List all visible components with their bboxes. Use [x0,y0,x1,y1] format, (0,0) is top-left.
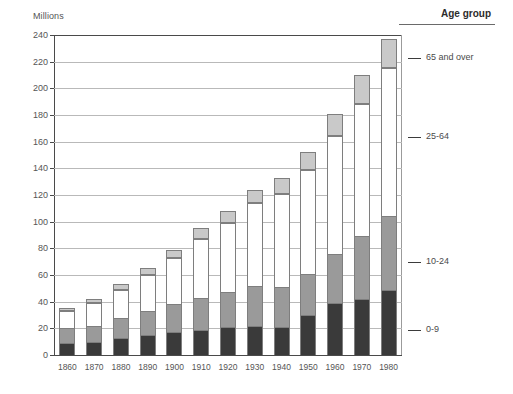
legend-dash-10-24 [408,262,421,263]
bar-segment-1920-0-9 [220,327,236,355]
gridline-200 [54,88,402,89]
y-tick-mark-180 [50,115,54,116]
bar-segment-1980-25-64 [381,68,397,216]
plot-area [54,35,402,356]
bar-segment-1960-25-64 [327,136,343,253]
bar-segment-1900-65-and-over [166,250,182,258]
y-tick-label-40: 40 [20,297,48,307]
bar-segment-1940-10-24 [274,287,290,327]
y-tick-mark-60 [50,275,54,276]
bar-segment-1900-0-9 [166,332,182,355]
bar-1910[interactable] [193,228,209,355]
y-tick-mark-160 [50,142,54,143]
bar-segment-1930-65-and-over [247,190,263,203]
bar-segment-1980-10-24 [381,216,397,289]
bar-segment-1890-10-24 [140,311,156,335]
bar-segment-1920-25-64 [220,223,236,292]
legend-title: Age group [441,8,491,19]
bar-segment-1860-10-24 [59,328,75,343]
y-tick-label-140: 140 [20,163,48,173]
bar-segment-1910-25-64 [193,239,209,298]
y-tick-label-160: 160 [20,137,48,147]
bar-1920[interactable] [220,211,236,355]
bar-segment-1950-0-9 [300,315,316,355]
bar-segment-1940-25-64 [274,194,290,287]
bar-segment-1970-65-and-over [354,75,370,104]
bar-segment-1970-25-64 [354,104,370,236]
bar-1930[interactable] [247,190,263,355]
y-tick-label-180: 180 [20,110,48,120]
bar-segment-1950-65-and-over [300,152,316,169]
bar-segment-1930-10-24 [247,286,263,326]
y-tick-label-120: 120 [20,190,48,200]
bar-segment-1870-10-24 [86,326,102,342]
bar-1890[interactable] [140,268,156,355]
legend-label-25-64: 25-64 [426,131,449,141]
x-tick-label-1980: 1980 [372,362,406,372]
bar-1870[interactable] [86,299,102,355]
bar-1980[interactable] [381,39,397,355]
legend-label-65-and-over: 65 and over [426,52,474,62]
legend-label-10-24: 10-24 [426,256,449,266]
bar-segment-1930-0-9 [247,326,263,355]
bar-1880[interactable] [113,284,129,355]
y-tick-label-0: 0 [20,350,48,360]
bar-segment-1950-10-24 [300,274,316,315]
bar-segment-1870-0-9 [86,342,102,355]
bar-segment-1890-65-and-over [140,268,156,275]
legend-dash-65-and-over [408,58,421,59]
y-tick-label-60: 60 [20,270,48,280]
bar-segment-1920-65-and-over [220,211,236,223]
gridline-160 [54,142,402,143]
legend-dash-25-64 [408,137,421,138]
legend-title-divider [399,24,495,25]
y-tick-mark-140 [50,168,54,169]
bar-segment-1970-0-9 [354,299,370,355]
bar-1950[interactable] [300,152,316,355]
y-tick-label-240: 240 [20,30,48,40]
bar-segment-1870-25-64 [86,303,102,326]
bar-segment-1970-10-24 [354,236,370,299]
bar-1970[interactable] [354,75,370,355]
y-tick-mark-40 [50,302,54,303]
bar-segment-1860-0-9 [59,343,75,355]
bar-segment-1900-10-24 [166,304,182,332]
y-tick-mark-200 [50,88,54,89]
bar-segment-1910-0-9 [193,330,209,355]
bar-segment-1890-25-64 [140,275,156,311]
y-tick-mark-220 [50,62,54,63]
bar-segment-1950-25-64 [300,170,316,274]
y-tick-mark-240 [50,35,54,36]
y-tick-label-20: 20 [20,323,48,333]
bar-segment-1880-0-9 [113,338,129,355]
bar-1940[interactable] [274,178,290,355]
bar-segment-1890-0-9 [140,335,156,355]
bar-segment-1960-10-24 [327,254,343,303]
bar-segment-1940-65-and-over [274,178,290,194]
y-tick-label-220: 220 [20,57,48,67]
y-tick-mark-0 [50,355,54,356]
bar-segment-1910-10-24 [193,298,209,330]
bar-segment-1930-25-64 [247,203,263,286]
bar-segment-1920-10-24 [220,292,236,327]
y-axis-units-label: Millions [33,11,64,21]
gridline-220 [54,62,402,63]
bar-segment-1880-10-24 [113,318,129,338]
y-tick-mark-100 [50,222,54,223]
bar-segment-1860-25-64 [59,311,75,328]
y-tick-mark-120 [50,195,54,196]
legend-dash-0-9 [408,330,421,331]
axis-top [54,35,402,36]
bar-segment-1940-0-9 [274,327,290,355]
bar-1860[interactable] [59,308,75,355]
chart-root: Millions Age group 020406080100120140160… [0,0,513,394]
y-tick-label-200: 200 [20,83,48,93]
bar-segment-1980-65-and-over [381,39,397,68]
bar-segment-1960-0-9 [327,303,343,355]
gridline-140 [54,168,402,169]
bar-1960[interactable] [327,114,343,355]
bar-segment-1880-25-64 [113,290,129,318]
y-tick-label-100: 100 [20,217,48,227]
bar-1900[interactable] [166,250,182,355]
y-tick-mark-80 [50,248,54,249]
